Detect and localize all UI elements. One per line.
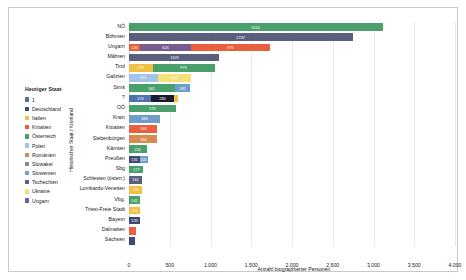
- stacked-bar[interactable]: 375422: [129, 74, 191, 82]
- bar-row[interactable]: Preußen131101: [129, 154, 455, 164]
- bar-value-label: 280: [159, 96, 166, 101]
- stacked-bar[interactable]: 562182: [129, 84, 190, 92]
- stacked-bar[interactable]: [129, 237, 135, 245]
- bar-segment[interactable]: 1109: [129, 54, 219, 62]
- legend-item-label: Slowenien: [32, 170, 56, 176]
- bar-value-label: 131: [131, 208, 138, 213]
- bar-segment[interactable]: [174, 95, 178, 103]
- bar-segment[interactable]: 158: [129, 186, 142, 194]
- bar-value-label: 2747: [236, 35, 245, 40]
- category-label: Stmk: [55, 85, 129, 90]
- legend-item-label: Kroatien: [32, 124, 51, 130]
- legend-item-label: Österreich: [32, 133, 56, 139]
- bar-segment[interactable]: 562: [129, 84, 175, 92]
- bar-row[interactable]: Sachsen: [129, 236, 455, 246]
- bar-segment[interactable]: 2747: [129, 33, 353, 41]
- stacked-bar[interactable]: 383: [129, 115, 160, 123]
- stacked-bar[interactable]: 131: [129, 207, 140, 215]
- stacked-bar[interactable]: 161: [129, 176, 142, 184]
- bar-value-label: 373: [138, 65, 145, 70]
- bar-row[interactable]: Kärnten216: [129, 144, 455, 154]
- stacked-bar[interactable]: 158: [129, 186, 142, 194]
- stacked-bar[interactable]: 216: [129, 145, 147, 153]
- bar-row[interactable]: Schlesien (österr.)161: [129, 175, 455, 185]
- bar-value-label: 1109: [170, 55, 179, 60]
- stacked-bar[interactable]: [129, 227, 136, 235]
- bar-row[interactable]: Siebenbürgen344: [129, 134, 455, 144]
- bar-segment[interactable]: 141: [129, 196, 140, 204]
- legend-swatch-icon: [25, 153, 29, 157]
- bar-row[interactable]: Stmk562182: [129, 83, 455, 93]
- chart-screenshot: Heutiger Staat 1DeutschlandItalienKroati…: [0, 0, 466, 280]
- stacked-bar[interactable]: 139: [129, 217, 140, 225]
- category-label: Kroatien: [55, 125, 129, 130]
- stacked-bar[interactable]: 274280: [129, 95, 178, 103]
- bar-segment[interactable]: 131: [129, 207, 140, 215]
- bar-row[interactable]: Böhmen2747: [129, 32, 455, 42]
- bar-segment[interactable]: 182: [175, 84, 190, 92]
- bar-value-label: 101: [140, 157, 147, 162]
- bar-row[interactable]: Mähren1109: [129, 53, 455, 63]
- stacked-bar[interactable]: 177: [129, 166, 143, 174]
- bar-value-label: 575: [149, 106, 156, 111]
- bar-segment[interactable]: 280: [151, 95, 174, 103]
- bar-segment[interactable]: 344: [129, 135, 157, 143]
- bar-row[interactable]: NÖ3114: [129, 22, 455, 32]
- bar-segment[interactable]: [129, 237, 135, 245]
- bar-segment[interactable]: 975: [191, 44, 270, 52]
- bar-segment[interactable]: 274: [129, 95, 151, 103]
- bar-value-label: 182: [179, 86, 186, 91]
- stacked-bar[interactable]: 344: [129, 125, 157, 133]
- bar-segment[interactable]: 383: [129, 115, 160, 123]
- bar-segment[interactable]: 375: [129, 74, 158, 82]
- stacked-bar[interactable]: 141: [129, 196, 140, 204]
- chart-frame: Heutiger Staat 1DeutschlandItalienKroati…: [8, 7, 458, 272]
- bar-segment[interactable]: 136: [129, 44, 140, 52]
- bar-segment[interactable]: 979: [153, 64, 215, 72]
- bar-row[interactable]: Bayern139: [129, 215, 455, 225]
- bar-row[interactable]: Kroatien344: [129, 124, 455, 134]
- bar-value-label: 216: [134, 147, 141, 152]
- stacked-bar[interactable]: 344: [129, 135, 157, 143]
- stacked-bar[interactable]: 1109: [129, 54, 219, 62]
- bar-segment[interactable]: 101: [140, 156, 148, 164]
- bar-segment[interactable]: 216: [129, 145, 147, 153]
- bar-segment[interactable]: 575: [129, 105, 176, 113]
- stacked-bar[interactable]: 373979: [129, 64, 215, 72]
- bar-row[interactable]: Krain383: [129, 114, 455, 124]
- bar-segment[interactable]: 373: [129, 64, 153, 72]
- bar-row[interactable]: Dalmatien: [129, 226, 455, 236]
- bar-row[interactable]: Ungarn136624975: [129, 42, 455, 52]
- bar-segment[interactable]: 139: [129, 217, 140, 225]
- bar-row[interactable]: Galizien375422: [129, 73, 455, 83]
- bar-row[interactable]: OÖ575: [129, 103, 455, 113]
- bar-value-label: 161: [132, 177, 139, 182]
- bar-row[interactable]: Tirol373979: [129, 63, 455, 73]
- stacked-bar[interactable]: 3114: [129, 23, 383, 31]
- bar-row[interactable]: Triest-Freie Stadt131: [129, 205, 455, 215]
- legend-item-label: Slowakei: [32, 161, 53, 167]
- stacked-bar[interactable]: 575: [129, 105, 176, 113]
- bar-value-label: 562: [149, 86, 156, 91]
- bar-value-label: 344: [140, 137, 147, 142]
- bar-segment[interactable]: 344: [129, 125, 157, 133]
- bar-segment[interactable]: 177: [129, 166, 143, 174]
- bar-row[interactable]: Sbg177: [129, 165, 455, 175]
- bar-segment[interactable]: 422: [158, 74, 191, 82]
- legend-swatch-icon: [25, 198, 29, 202]
- bar-segment[interactable]: 161: [129, 176, 142, 184]
- category-label: Lombardo-Venetien: [55, 186, 129, 191]
- stacked-bar[interactable]: 2747: [129, 33, 353, 41]
- bar-segment[interactable]: 624: [140, 44, 191, 52]
- bar-row[interactable]: ?274280: [129, 93, 455, 103]
- bar-segment[interactable]: [129, 227, 136, 235]
- bar-value-label: 274: [137, 96, 144, 101]
- bar-segment[interactable]: 131: [129, 156, 140, 164]
- bar-segment[interactable]: 3114: [129, 23, 383, 31]
- stacked-bar[interactable]: 136624975: [129, 44, 289, 52]
- bar-row[interactable]: Vbg.141: [129, 195, 455, 205]
- bar-row[interactable]: Lombardo-Venetien158: [129, 185, 455, 195]
- bar-value-label: 422: [172, 76, 179, 81]
- category-label: Tirol: [55, 64, 129, 69]
- stacked-bar[interactable]: 131101: [129, 156, 148, 164]
